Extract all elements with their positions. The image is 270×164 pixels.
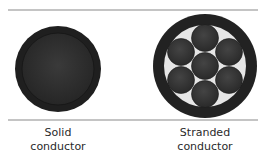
solid-label-line1: Solid: [8, 126, 108, 140]
solid-conductor-label: Solid conductor: [8, 126, 108, 154]
strand-upper-left: [168, 39, 195, 66]
strand-top: [192, 25, 219, 52]
strand-upper-right: [216, 39, 243, 66]
strand-lower-left: [168, 67, 195, 94]
stranded-label-line2: conductor: [155, 140, 255, 154]
strand-lower-right: [216, 67, 243, 94]
strand-bottom: [192, 81, 219, 108]
solid-conductor-icon: [15, 26, 101, 112]
stranded-label-line1: Stranded: [155, 126, 255, 140]
stranded-conductor-label: Stranded conductor: [155, 126, 255, 154]
solid-label-line2: conductor: [8, 140, 108, 154]
strand-center: [192, 53, 219, 80]
stranded-conductor-icon: [153, 14, 257, 118]
